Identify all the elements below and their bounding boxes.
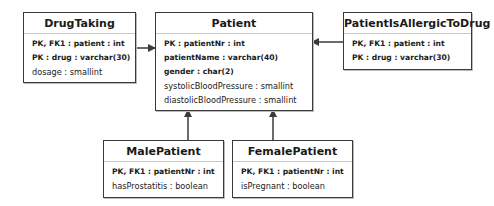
entity-attribute: PK : drug : varchar(30) [352,51,471,65]
entity-attribute: PK, FK1 : patient : int [352,37,471,51]
entity-attribute: diastolicBloodPressure : smallint [164,93,312,107]
entity-malepatient[interactable]: MalePatient PK, FK1 : patientNr : int ha… [103,140,224,198]
entity-drugtaking[interactable]: DrugTaking PK, FK1 : patient : int PK : … [23,12,136,83]
entity-attribute: PK : drug : varchar(30) [32,51,135,65]
entity-attribute: dosage : smallint [32,65,135,79]
entity-title: PatientIsAllergicToDrug [344,13,471,34]
entity-attribute: PK, FK1 : patientNr : int [112,165,223,179]
entity-title: Patient [156,13,312,34]
entity-title: DrugTaking [24,13,135,34]
entity-attribute: patientName : varchar(40) [164,51,312,65]
entity-attribute: PK, FK1 : patientNr : int [241,165,352,179]
entity-attribute: isPregnant : boolean [241,179,352,193]
entity-attribute: systolicBloodPressure : smallint [164,79,312,93]
entity-title: FemalePatient [233,141,352,162]
entity-patient[interactable]: Patient PK : patientNr : int patientName… [155,12,313,111]
entity-attribute: gender : char(2) [164,65,312,79]
entity-femalepatient[interactable]: FemalePatient PK, FK1 : patientNr : int … [232,140,353,198]
entity-title: MalePatient [104,141,223,162]
entity-attribute: hasProstatitis : boolean [112,179,223,193]
entity-attribute: PK, FK1 : patient : int [32,37,135,51]
entity-patientisallergictodrug[interactable]: PatientIsAllergicToDrug PK, FK1 : patien… [343,12,472,70]
entity-attribute: PK : patientNr : int [164,37,312,51]
